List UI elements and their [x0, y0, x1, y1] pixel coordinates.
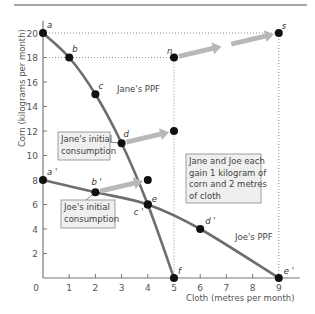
data-point	[144, 201, 152, 209]
point-label: f	[178, 266, 183, 276]
point-label: e '	[284, 266, 294, 276]
ppf-chart: Jane's PPFJoe's PPF Cloth (metres per mo…	[0, 0, 315, 314]
y-tick-label: 14	[27, 102, 39, 112]
data-point	[144, 176, 152, 184]
gain-arrow	[178, 43, 221, 59]
data-point	[170, 127, 178, 135]
point-label: d	[124, 129, 130, 139]
data-point	[91, 90, 99, 98]
jane-box-text: Jane's initial	[60, 134, 112, 144]
joe-ppf-label: Joe's PPF	[234, 232, 273, 242]
x-tick-label: 9	[276, 283, 282, 293]
data-point	[91, 188, 99, 196]
x-tick-label: 3	[119, 283, 125, 293]
data-point	[39, 176, 47, 184]
gain-arrow	[126, 128, 169, 144]
y-tick-label: 10	[27, 151, 39, 161]
y-tick-label: 8	[32, 176, 38, 186]
gain-box-text: Jane and Joe each	[188, 156, 265, 166]
data-point	[39, 29, 47, 37]
gain-box-text: gain 1 kilogram of	[189, 168, 267, 178]
data-point	[118, 139, 126, 147]
gain-arrow	[100, 177, 143, 193]
y-tick-label: 18	[27, 53, 39, 63]
y-tick-label: 4	[32, 225, 38, 235]
point-label: s	[282, 21, 287, 31]
jane-box-text: consumption	[61, 146, 116, 156]
jane-ppf-label: Jane's PPF	[116, 84, 160, 94]
y-tick-label: 16	[27, 78, 39, 88]
x-tick-label: 1	[66, 283, 72, 293]
y-tick-label: 6	[32, 200, 38, 210]
y-tick-label: 12	[27, 127, 38, 137]
point-label: e	[152, 194, 157, 204]
point-label: c '	[134, 207, 144, 217]
data-point	[275, 274, 283, 282]
x-tick-label: 8	[250, 283, 256, 293]
origin-label: 0	[33, 283, 39, 293]
joe-box-text: Joe's initial	[63, 202, 110, 212]
point-label: b	[72, 44, 77, 54]
data-point	[170, 274, 178, 282]
data-point	[65, 54, 73, 62]
gain-box-text: corn and 2 metres	[189, 179, 267, 189]
y-tick-label: 2	[32, 249, 38, 259]
gain-box-text: of cloth	[189, 191, 221, 201]
point-label: b '	[91, 177, 101, 187]
point-label: c	[98, 81, 103, 91]
point-label: a '	[47, 167, 57, 177]
y-axis-title: Corn (kilograms per month)	[17, 29, 27, 147]
x-tick-label: 7	[224, 283, 230, 293]
x-tick-label: 6	[197, 283, 203, 293]
point-label: d '	[205, 216, 215, 226]
x-tick-label: 5	[171, 283, 177, 293]
x-tick-label: 4	[145, 283, 151, 293]
data-point	[196, 225, 204, 233]
gain-arrow	[231, 30, 274, 46]
x-tick-label: 2	[93, 283, 99, 293]
point-label: a	[47, 20, 52, 30]
y-tick-label: 20	[27, 29, 39, 39]
joe-box-text: consumption	[64, 214, 119, 224]
annotation-boxes: Jane's initialconsumptionJoe's initialco…	[58, 132, 267, 228]
x-axis-title: Cloth (metres per month)	[186, 293, 294, 303]
point-label: n	[167, 46, 172, 56]
